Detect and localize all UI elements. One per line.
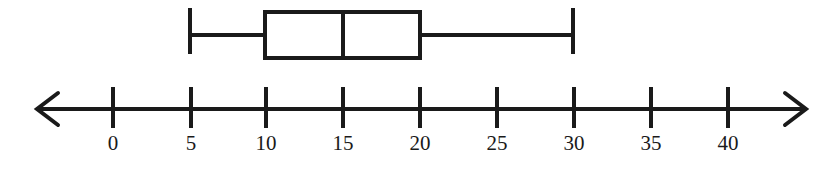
axis-tick-label: 0 <box>108 133 119 154</box>
axis-tick-label: 25 <box>487 133 508 154</box>
box-plot-series <box>190 8 573 58</box>
axis-tick-label: 35 <box>641 133 662 154</box>
axis-tick-label: 40 <box>718 133 739 154</box>
axis-tick-label: 15 <box>333 133 354 154</box>
axis-tick-label: 10 <box>256 133 277 154</box>
axis-tick-label: 30 <box>564 133 585 154</box>
number-line-axis <box>37 87 806 128</box>
axis-tick-label: 5 <box>186 133 197 154</box>
axis-tick-label: 20 <box>410 133 431 154</box>
box-plot-figure: 0 5 10 15 20 25 30 35 40 <box>0 0 834 174</box>
